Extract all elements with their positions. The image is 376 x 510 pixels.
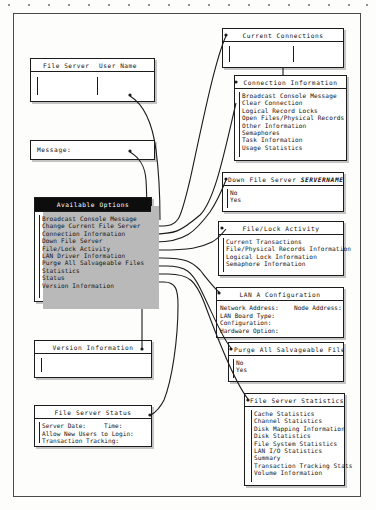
menu-item[interactable]: Summary xyxy=(254,454,344,461)
down-file-server-list: No Yes xyxy=(230,189,343,204)
purge-cursor-bar xyxy=(233,359,234,378)
menu-item[interactable]: Disk Statistics xyxy=(254,432,344,439)
lan-a-configuration-fields: Network Address: Node Address: LAN Board… xyxy=(220,304,343,334)
menu-item[interactable]: LAN I/O Statistics xyxy=(254,447,344,454)
file-server-label: File Server xyxy=(43,59,89,72)
file-lock-activity-body: Current Transactions File/Physical Recor… xyxy=(219,235,343,275)
file-server-status-body: Server Date: Time: Allow New Users to Lo… xyxy=(35,419,151,446)
down-file-server-title-text: Down File Server xyxy=(228,176,301,183)
down-file-server-servername: SERVERNAME xyxy=(301,176,343,183)
version-information-dialog[interactable]: Version Information xyxy=(34,340,152,378)
available-options-list: Broadcast Console Message Change Current… xyxy=(42,215,151,289)
connection-information-titlebar: Connection Information xyxy=(235,76,346,89)
status-cursor-bar xyxy=(39,422,40,443)
menu-item[interactable]: Down File Server xyxy=(42,237,151,244)
available-options-menu[interactable]: Available Options Broadcast Console Mess… xyxy=(34,197,152,302)
version-information-body xyxy=(35,354,151,377)
menu-item[interactable]: No xyxy=(236,359,343,366)
file-lock-activity-titlebar: File/Lock Activity xyxy=(219,222,343,235)
menu-item[interactable]: Change Current File Server xyxy=(42,222,151,229)
menu-item[interactable]: Task Information xyxy=(242,136,346,143)
menu-item[interactable]: File System Statistics xyxy=(254,440,344,447)
menu-item[interactable]: Status xyxy=(42,274,151,281)
statistics-cursor-bar xyxy=(251,410,252,482)
lan-field-row: Configuration: xyxy=(220,319,343,327)
file-lock-activity-dialog[interactable]: File/Lock Activity Current Transactions … xyxy=(218,221,344,276)
menu-item[interactable]: Volume Information xyxy=(254,469,344,476)
lan-a-configuration-body: Network Address: Node Address: LAN Board… xyxy=(217,301,343,337)
file-lock-activity-list: Current Transactions File/Physical Recor… xyxy=(226,238,343,268)
connection-information-dialog[interactable]: Connection Information Broadcast Console… xyxy=(234,75,347,161)
file-server-status-titlebar: File Server Status xyxy=(35,406,151,419)
purge-all-salvageable-files-dialog[interactable]: Purge All Salvageable Files No Yes xyxy=(228,342,344,382)
menu-item[interactable]: Semaphores xyxy=(242,129,346,136)
lan-field-row: Network Address: Node Address: xyxy=(220,304,343,312)
connection-information-body: Broadcast Console Message Clear Connecti… xyxy=(235,89,346,160)
menu-item[interactable]: Yes xyxy=(236,366,343,373)
menu-item[interactable]: Usage Statistics xyxy=(242,144,346,151)
current-connections-titlebar: Current Connections xyxy=(223,29,343,42)
menu-item[interactable]: File/Lock Activity xyxy=(42,245,151,252)
menu-item[interactable]: Disk Mapping Information xyxy=(254,425,344,432)
lan-a-configuration-dialog[interactable]: LAN A Configuration Network Address: Nod… xyxy=(216,287,344,338)
down-file-server-dialog[interactable]: Down File Server SERVERNAME No Yes xyxy=(222,172,344,212)
current-connections-dialog[interactable]: Current Connections xyxy=(222,28,344,68)
menu-item[interactable]: Open Files/Physical Records xyxy=(242,114,346,121)
menu-item[interactable]: Semaphore Information xyxy=(226,260,343,267)
network-address-label: Network Address: xyxy=(220,304,279,311)
menu-item[interactable]: Purge All Salvageable Files xyxy=(42,259,151,266)
menu-item[interactable]: Logical Lock Information xyxy=(226,253,343,260)
menu-item[interactable]: Broadcast Console Message xyxy=(42,215,151,222)
menu-item[interactable]: Transaction Tracking Stats xyxy=(254,462,344,469)
perforation-dots xyxy=(8,4,368,8)
menu-cursor-bar xyxy=(39,215,40,298)
lan-field-row: Hardware Option: xyxy=(220,327,343,335)
menu-item[interactable]: Yes xyxy=(230,196,343,203)
file-server-statistics-titlebar: File Server Statistics xyxy=(245,394,344,407)
menu-item[interactable]: Current Transactions xyxy=(226,238,343,245)
down-file-server-titlebar: Down File Server SERVERNAME xyxy=(223,173,343,186)
user-name-value-caret xyxy=(97,77,98,95)
status-field-row: Transaction Tracking: xyxy=(42,437,151,445)
hardware-option-label: Hardware Option: xyxy=(220,327,279,334)
file-server-user-name-dialog[interactable]: File Server User Name xyxy=(30,58,155,102)
message-dialog[interactable]: Message: xyxy=(30,140,155,160)
file-server-statistics-body: Cache Statistics Channel Statistics Disk… xyxy=(245,407,344,485)
menu-item[interactable]: Broadcast Console Message xyxy=(242,92,346,99)
lan-board-type-label: LAN Board Type: xyxy=(220,312,275,319)
status-field-row: Server Date: Time: xyxy=(42,422,151,430)
file-server-status-dialog[interactable]: File Server Status Server Date: Time: Al… xyxy=(34,405,152,447)
current-connections-caret-1 xyxy=(229,46,230,62)
allow-new-users-label: Allow New Users to Login: xyxy=(42,430,134,437)
file-lock-cursor-bar xyxy=(223,238,224,272)
lan-a-configuration-titlebar: LAN A Configuration xyxy=(217,288,343,301)
file-server-status-fields: Server Date: Time: Allow New Users to Lo… xyxy=(42,422,151,445)
available-options-titlebar: Available Options xyxy=(35,198,151,212)
file-server-user-name-body xyxy=(31,72,154,101)
purge-all-salvageable-files-titlebar: Purge All Salvageable Files xyxy=(229,343,343,356)
menu-map-page: File Server User Name Message: Available… xyxy=(0,0,376,510)
menu-item[interactable]: Other Information xyxy=(242,122,346,129)
menu-item[interactable]: Clear Connection xyxy=(242,99,346,106)
menu-item[interactable]: Cache Statistics xyxy=(254,410,344,417)
menu-item[interactable]: File/Physical Records Information xyxy=(226,245,343,252)
menu-item[interactable]: Connection Information xyxy=(42,230,151,237)
file-server-value-caret xyxy=(37,77,38,95)
file-server-statistics-dialog[interactable]: File Server Statistics Cache Statistics … xyxy=(244,393,345,486)
status-field-row: Allow New Users to Login: xyxy=(42,430,151,438)
file-server-statistics-list: Cache Statistics Channel Statistics Disk… xyxy=(254,410,344,477)
menu-item[interactable]: No xyxy=(230,189,343,196)
down-file-server-cursor-bar xyxy=(227,189,228,208)
down-file-server-body: No Yes xyxy=(223,186,343,211)
transaction-tracking-label: Transaction Tracking: xyxy=(42,437,119,444)
version-information-titlebar: Version Information xyxy=(35,341,151,354)
menu-item[interactable]: Version Information xyxy=(42,282,151,289)
menu-item[interactable]: LAN Driver Information xyxy=(42,252,151,259)
connection-information-list: Broadcast Console Message Clear Connecti… xyxy=(242,92,346,151)
menu-item[interactable]: Logical Record Locks xyxy=(242,107,346,114)
connection-cursor-bar xyxy=(239,92,240,157)
menu-item[interactable]: Statistics xyxy=(42,267,151,274)
current-connections-body xyxy=(223,42,343,67)
menu-item[interactable]: Channel Statistics xyxy=(254,417,344,424)
user-name-label: User Name xyxy=(99,59,137,72)
